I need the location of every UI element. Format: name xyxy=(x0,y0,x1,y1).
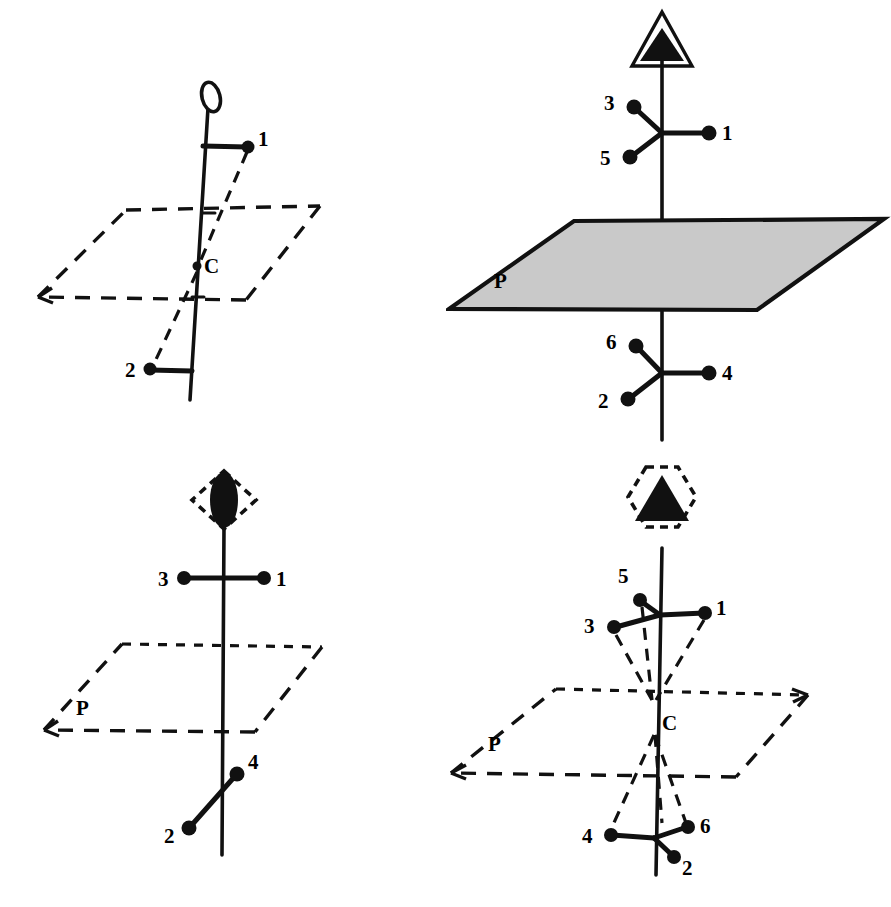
plane-label-p-bottom-right: P xyxy=(488,732,501,756)
panel-bottom-right: P 5 3 1 xyxy=(446,455,891,907)
atom-label-6-br: 6 xyxy=(700,814,711,838)
atom-label-3-upper: 3 xyxy=(604,91,615,115)
diagram-bottom-right: P 5 3 1 xyxy=(446,455,891,907)
diagram-top-right: P 3 1 5 6 4 xyxy=(446,0,891,455)
panel-bottom-left: P 3 1 4 2 xyxy=(0,455,446,907)
atom-label-1-upper: 1 xyxy=(722,121,733,145)
plane-outline-top-left xyxy=(38,206,320,303)
filled-triangle-outline-icon xyxy=(632,12,692,66)
atom-group-upper xyxy=(623,100,717,165)
atom-label-1-bl: 1 xyxy=(276,567,287,591)
plane-p-bottom-left xyxy=(44,644,322,736)
figure-root: 1 C 2 xyxy=(0,0,891,907)
plane-p-bottom-right xyxy=(451,689,808,779)
panel-top-right: P 3 1 5 6 4 xyxy=(446,0,891,455)
atom-label-6-lower: 6 xyxy=(606,330,617,354)
atom-label-5-br: 5 xyxy=(618,564,629,588)
projection-line-lower xyxy=(152,272,197,368)
panel-top-left: 1 C 2 xyxy=(0,0,446,455)
atom-label-5-upper: 5 xyxy=(600,146,611,170)
atom-label-4-bl: 4 xyxy=(248,750,259,774)
atom-label-3-br: 3 xyxy=(584,614,595,638)
filled-triangle-in-dashed-hexagon-icon xyxy=(628,467,696,527)
atom-label-2-br: 2 xyxy=(682,856,693,880)
atom-label-2-lower: 2 xyxy=(598,389,609,413)
atom-group-lower xyxy=(621,339,717,407)
filled-lens-in-open-diamond-icon xyxy=(192,471,256,529)
projection-lines-lower-br xyxy=(612,735,686,827)
bond-atom-2 xyxy=(144,363,193,376)
plane-label-p: P xyxy=(494,269,507,293)
atom-group-lower-bl xyxy=(182,767,245,836)
plane-p-top-right xyxy=(449,219,884,310)
centre-label-c: C xyxy=(204,254,219,278)
atom-label-4-br: 4 xyxy=(582,824,593,848)
atom-label-4-lower: 4 xyxy=(722,361,733,385)
plane-label-p-bottom-left: P xyxy=(76,696,89,720)
bond-atom-1 xyxy=(203,141,255,154)
atom-label-3-bl: 3 xyxy=(158,567,169,591)
open-ellipse-icon xyxy=(199,80,224,113)
centre-point xyxy=(193,262,202,271)
atom-label-2-bl: 2 xyxy=(164,824,175,848)
atom-label-2: 2 xyxy=(125,358,136,382)
diagram-bottom-left: P 3 1 4 2 xyxy=(0,455,446,907)
centre-label-c-br: C xyxy=(662,711,677,735)
diagram-top-left: 1 C 2 xyxy=(0,0,446,455)
atom-label-1-br: 1 xyxy=(716,596,727,620)
atom-label-1: 1 xyxy=(258,127,269,151)
